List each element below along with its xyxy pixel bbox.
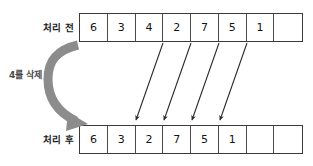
array-before-cell-2: 4 <box>136 14 164 41</box>
array-after-cell-1: 3 <box>108 126 136 153</box>
array-before: 6 3 4 2 7 5 1 <box>79 13 303 42</box>
array-after-cell-4: 5 <box>191 126 219 153</box>
array-after-cell-2: 2 <box>136 126 164 153</box>
shift-arrow-group <box>136 43 247 120</box>
array-after-cell-0: 6 <box>80 126 108 153</box>
array-before-cell-6: 1 <box>247 14 275 41</box>
array-before-cell-1: 3 <box>108 14 136 41</box>
array-before-cell-3: 2 <box>163 14 191 41</box>
label-before-processing: 처리 전 <box>20 23 74 33</box>
array-after-cell-7 <box>274 126 302 153</box>
shift-arrow-3 <box>220 43 247 120</box>
label-after-processing: 처리 후 <box>20 135 74 145</box>
shift-arrow-2 <box>192 43 219 120</box>
array-before-cell-4: 7 <box>191 14 219 41</box>
array-before-cell-5: 5 <box>219 14 247 41</box>
delete-curved-arrow <box>48 45 88 131</box>
shift-arrow-1 <box>164 43 191 120</box>
array-after-cell-3: 7 <box>163 126 191 153</box>
array-deletion-diagram: 처리 전 6 3 4 2 7 5 1 4를 삭제 처리 후 6 3 2 7 5 … <box>0 0 313 166</box>
shift-arrow-0 <box>136 43 163 120</box>
array-after-cell-6 <box>247 126 275 153</box>
array-after: 6 3 2 7 5 1 <box>79 125 303 154</box>
array-after-cell-5: 1 <box>219 126 247 153</box>
array-before-cell-7 <box>274 14 302 41</box>
array-before-cell-0: 6 <box>80 14 108 41</box>
delete-operation-caption: 4를 삭제 <box>9 71 42 80</box>
